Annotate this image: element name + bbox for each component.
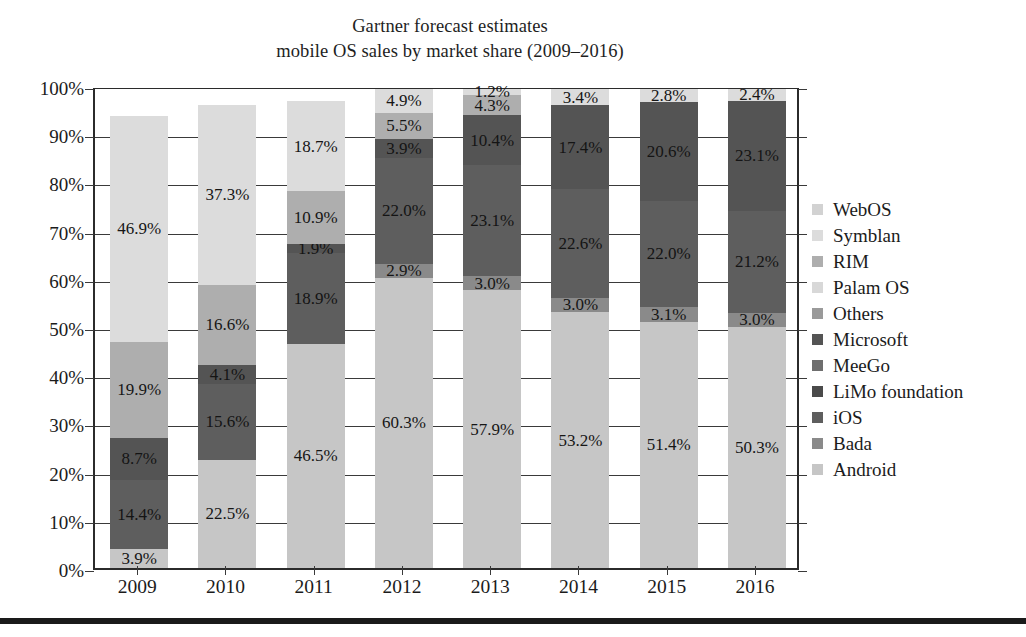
legend-item-label: Bada bbox=[833, 434, 872, 453]
legend-swatch-icon bbox=[812, 360, 823, 371]
bar-segment-android[interactable]: 53.2% bbox=[551, 312, 609, 568]
legend-item-label: Others bbox=[833, 304, 884, 323]
bar-segment-label: 37.3% bbox=[205, 186, 249, 203]
bar-segment-ios[interactable]: 21.2% bbox=[728, 211, 786, 313]
bar-segment-symblan[interactable]: 2.4% bbox=[728, 89, 786, 101]
bar-segment-ios[interactable]: 22.0% bbox=[640, 201, 698, 306]
bar-2013[interactable]: 57.9%3.0%23.1%10.4%4.3%1.2% bbox=[463, 89, 521, 568]
bar-segment-symblan[interactable]: 2.8% bbox=[640, 89, 698, 102]
y-axis-tick-label: 10% bbox=[14, 513, 84, 532]
bar-segment-label: 50.3% bbox=[735, 439, 779, 456]
bar-segment-microsoft[interactable]: 3.9% bbox=[375, 139, 433, 158]
y-axis-tick bbox=[85, 571, 94, 572]
bar-segment-bada[interactable]: 3.0% bbox=[551, 298, 609, 312]
bar-segment-ios[interactable]: 22.0% bbox=[375, 158, 433, 264]
bar-2012[interactable]: 60.3%2.9%22.0%3.9%5.5%4.9% bbox=[375, 89, 433, 568]
x-axis-tick bbox=[137, 566, 138, 575]
bar-segment-ios[interactable]: 14.4% bbox=[110, 480, 168, 549]
bar-2015[interactable]: 51.4%3.1%22.0%20.6%2.8% bbox=[640, 89, 698, 568]
bar-segment-microsoft[interactable]: 1.9% bbox=[287, 244, 345, 253]
bar-segment-bada[interactable]: 2.9% bbox=[375, 264, 433, 278]
bar-segment-bada[interactable]: 3.0% bbox=[463, 276, 521, 290]
bar-segment-microsoft[interactable]: 10.4% bbox=[463, 115, 521, 165]
bar-segment-bada[interactable]: 3.1% bbox=[640, 307, 698, 322]
legend-item-others[interactable]: Others bbox=[812, 300, 1017, 326]
bar-segment-microsoft[interactable]: 4.1% bbox=[198, 365, 256, 385]
legend-item-limo-foundation[interactable]: LiMo foundation bbox=[812, 378, 1017, 404]
bar-segment-symblan[interactable]: 18.7% bbox=[287, 101, 345, 191]
y-axis-tick-label: 80% bbox=[14, 175, 84, 194]
y-axis-tick bbox=[798, 330, 807, 331]
legend-item-android[interactable]: Android bbox=[812, 456, 1017, 482]
y-axis-tick bbox=[798, 426, 807, 427]
x-axis-tick bbox=[578, 566, 579, 575]
y-axis-tick bbox=[85, 475, 94, 476]
bar-segment-ios[interactable]: 23.1% bbox=[463, 165, 521, 276]
bar-segment-microsoft[interactable]: 23.1% bbox=[728, 101, 786, 212]
bar-2009[interactable]: 3.9%14.4%8.7%19.9%46.9% bbox=[110, 89, 168, 568]
bar-2010[interactable]: 22.5%15.6%4.1%16.6%37.3% bbox=[198, 89, 256, 568]
legend-item-label: WebOS bbox=[833, 200, 892, 219]
legend-item-meego[interactable]: MeeGo bbox=[812, 352, 1017, 378]
bar-segment-microsoft[interactable]: 20.6% bbox=[640, 102, 698, 201]
y-axis-tick-label: 0% bbox=[14, 561, 84, 580]
bar-segment-symblan[interactable]: 37.3% bbox=[198, 105, 256, 285]
bar-segment-rim[interactable]: 19.9% bbox=[110, 342, 168, 438]
y-axis-tick bbox=[85, 185, 94, 186]
bar-segment-bada[interactable]: 3.0% bbox=[728, 313, 786, 327]
legend-item-label: LiMo foundation bbox=[833, 382, 963, 401]
legend-item-symblan[interactable]: Symblan bbox=[812, 222, 1017, 248]
bar-segment-label: 46.5% bbox=[294, 447, 338, 464]
legend-item-ios[interactable]: iOS bbox=[812, 404, 1017, 430]
bar-segment-symblan[interactable]: 4.9% bbox=[375, 89, 433, 113]
title-line-1: Gartner forecast estimates bbox=[0, 14, 900, 39]
bar-2014[interactable]: 53.2%3.0%22.6%17.4%3.4% bbox=[551, 89, 609, 568]
bar-segment-rim[interactable]: 5.5% bbox=[375, 113, 433, 139]
bar-segment-label: 46.9% bbox=[117, 220, 161, 237]
bar-segment-label: 10.4% bbox=[470, 132, 514, 149]
bar-segment-ios[interactable]: 18.9% bbox=[287, 253, 345, 344]
bar-2016[interactable]: 50.3%3.0%21.2%23.1%2.4% bbox=[728, 89, 786, 568]
x-axis-tick bbox=[225, 566, 226, 575]
bar-segment-symblan[interactable]: 46.9% bbox=[110, 116, 168, 342]
legend-item-rim[interactable]: RIM bbox=[812, 248, 1017, 274]
bar-segment-android[interactable]: 50.3% bbox=[728, 327, 786, 568]
bar-segment-android[interactable]: 22.5% bbox=[198, 460, 256, 568]
title-line-2: mobile OS sales by market share (2009–20… bbox=[0, 39, 900, 64]
legend-item-microsoft[interactable]: Microsoft bbox=[812, 326, 1017, 352]
bar-segment-symblan[interactable]: 1.2% bbox=[463, 89, 521, 95]
x-axis-tick-label: 2009 bbox=[92, 575, 182, 599]
bar-segment-label: 4.9% bbox=[386, 92, 421, 109]
bar-segment-symblan[interactable]: 3.4% bbox=[551, 89, 609, 105]
y-axis-tick-label: 70% bbox=[14, 224, 84, 243]
bar-segment-microsoft[interactable]: 17.4% bbox=[551, 105, 609, 189]
y-axis-tick bbox=[798, 234, 807, 235]
legend-item-palam-os[interactable]: Palam OS bbox=[812, 274, 1017, 300]
legend-item-bada[interactable]: Bada bbox=[812, 430, 1017, 456]
bar-2011[interactable]: 46.5%18.9%1.9%10.9%18.7% bbox=[287, 89, 345, 568]
legend-swatch-icon bbox=[812, 464, 823, 475]
bar-segment-ios[interactable]: 22.6% bbox=[551, 189, 609, 298]
y-axis-tick-label: 20% bbox=[14, 465, 84, 484]
bar-segment-rim[interactable]: 16.6% bbox=[198, 285, 256, 365]
bar-segment-android[interactable]: 60.3% bbox=[375, 278, 433, 568]
legend-swatch-icon bbox=[812, 386, 823, 397]
bar-segment-microsoft[interactable]: 8.7% bbox=[110, 438, 168, 480]
bar-segment-label: 51.4% bbox=[647, 436, 691, 453]
bar-segment-ios[interactable]: 15.6% bbox=[198, 384, 256, 459]
legend-item-webos[interactable]: WebOS bbox=[812, 196, 1017, 222]
bar-segment-android[interactable]: 3.9% bbox=[110, 549, 168, 568]
bar-segment-android[interactable]: 57.9% bbox=[463, 290, 521, 568]
bar-segment-label: 2.9% bbox=[386, 262, 421, 279]
bar-segment-label: 14.4% bbox=[117, 506, 161, 523]
y-axis-labels: 100%90%80%70%60%50%40%30%20%10%0% bbox=[8, 88, 84, 570]
bar-segment-rim[interactable]: 10.9% bbox=[287, 191, 345, 244]
y-axis-tick bbox=[798, 89, 807, 90]
y-axis-tick bbox=[85, 137, 94, 138]
bar-segment-android[interactable]: 46.5% bbox=[287, 344, 345, 568]
x-axis-tick bbox=[314, 566, 315, 575]
bar-segment-android[interactable]: 51.4% bbox=[640, 322, 698, 568]
y-axis-tick bbox=[798, 475, 807, 476]
bar-segment-label: 4.1% bbox=[210, 366, 245, 383]
bar-segment-label: 2.4% bbox=[739, 86, 774, 103]
